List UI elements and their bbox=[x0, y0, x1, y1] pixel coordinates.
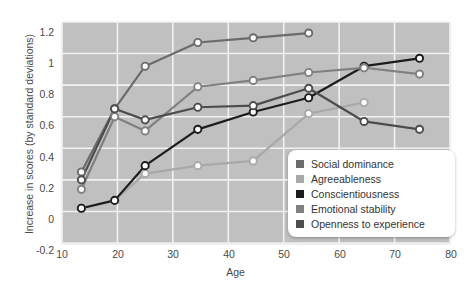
x-tick-label: 10 bbox=[47, 249, 77, 260]
legend-swatch-emotional-stability bbox=[296, 205, 304, 213]
legend: Social dominance Agreeableness Conscient… bbox=[288, 150, 455, 237]
x-tick-label: 20 bbox=[103, 249, 133, 260]
legend-swatch-agreeableness bbox=[296, 175, 304, 183]
legend-swatch-openness-to-experience bbox=[296, 220, 304, 228]
x-tick-label: 40 bbox=[214, 249, 244, 260]
x-tick-label: 60 bbox=[325, 249, 355, 260]
legend-item-conscientiousness[interactable]: Conscientiousness bbox=[296, 186, 448, 201]
x-axis-title: Age bbox=[0, 266, 471, 278]
y-axis-title: Increase in scores (by standard deviatio… bbox=[23, 9, 35, 259]
x-tick-label: 50 bbox=[269, 249, 299, 260]
legend-label: Openness to experience bbox=[311, 218, 425, 230]
legend-label: Agreeableness bbox=[311, 173, 381, 185]
x-tick-label: 30 bbox=[158, 249, 188, 260]
legend-swatch-conscientiousness bbox=[296, 190, 304, 198]
legend-label: Conscientiousness bbox=[311, 188, 399, 200]
chart-container: 1.2 1 0.8 0.6 0.4 0.2 0 -0.2 10 20 30 40… bbox=[0, 0, 471, 293]
x-tick-label: 80 bbox=[436, 249, 466, 260]
legend-label: Emotional stability bbox=[311, 203, 396, 215]
legend-item-openness-to-experience[interactable]: Openness to experience bbox=[296, 216, 448, 231]
legend-item-social-dominance[interactable]: Social dominance bbox=[296, 156, 448, 171]
legend-item-emotional-stability[interactable]: Emotional stability bbox=[296, 201, 448, 216]
legend-item-agreeableness[interactable]: Agreeableness bbox=[296, 171, 448, 186]
x-tick-label: 70 bbox=[380, 249, 410, 260]
legend-swatch-social-dominance bbox=[296, 160, 304, 168]
legend-label: Social dominance bbox=[311, 158, 394, 170]
